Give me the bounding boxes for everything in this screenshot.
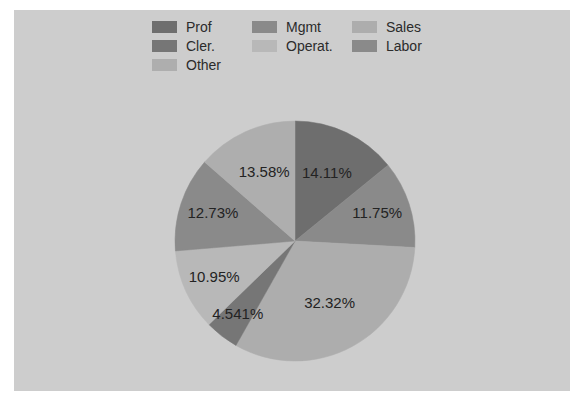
pie-slice-value-label: 13.58%: [239, 163, 290, 180]
pie-slice-value-label: 11.75%: [352, 204, 402, 221]
pie-slice-value-label: 10.95%: [189, 268, 240, 285]
pie-slices: [175, 121, 415, 361]
pie-slice-value-label: 12.73%: [187, 204, 238, 221]
pie-chart: 14.11%11.75%32.32%4.541%10.95%12.73%13.5…: [0, 0, 584, 404]
pie-chart-figure: ProfMgmtSalesCler.Operat.LaborOther 14.1…: [0, 0, 584, 404]
pie-svg: 14.11%11.75%32.32%4.541%10.95%12.73%13.5…: [0, 0, 584, 404]
pie-slice-value-label: 14.11%: [302, 164, 352, 181]
pie-slice-value-label: 4.541%: [212, 305, 263, 322]
pie-slice-value-label: 32.32%: [304, 294, 355, 311]
